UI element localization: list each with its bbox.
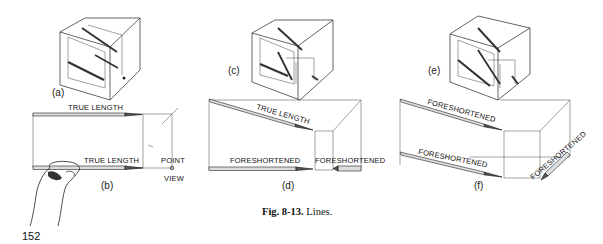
caption-figure-number: Fig. 8-13.	[262, 206, 304, 217]
figure-8-13: (a) TRUE LENGTH TRUE LENGTH POINT VIEW (…	[0, 0, 603, 244]
panel-b-top-label: TRUE LENGTH	[68, 103, 123, 112]
page-number: 152	[22, 230, 40, 242]
panel-e-glass-box	[450, 16, 530, 100]
caption-text: Lines.	[304, 206, 333, 217]
panel-f-side-label: FORESHORTENED	[529, 129, 589, 181]
panel-c-glass-box	[252, 20, 333, 100]
panel-c-label: (c)	[228, 65, 240, 76]
panel-b-point-label: POINT	[161, 156, 185, 165]
panel-d-bottom-label: FORESHORTENED	[230, 156, 301, 165]
panel-b-projection	[30, 108, 178, 226]
panel-a-glass-box	[60, 18, 140, 100]
panel-b-bottom-label: TRUE LENGTH	[84, 156, 139, 165]
panel-a-label: (a)	[52, 87, 64, 98]
panel-f-label: (f)	[474, 180, 483, 191]
panel-b-label: (b)	[101, 180, 113, 191]
panel-d-label: (d)	[282, 180, 294, 191]
panel-b-view-label: VIEW	[164, 174, 185, 183]
panel-e-label: (e)	[428, 65, 440, 76]
figure-caption: Fig. 8-13. Lines.	[262, 206, 332, 217]
panel-d-side-label: FORESHORTENED	[315, 156, 386, 165]
